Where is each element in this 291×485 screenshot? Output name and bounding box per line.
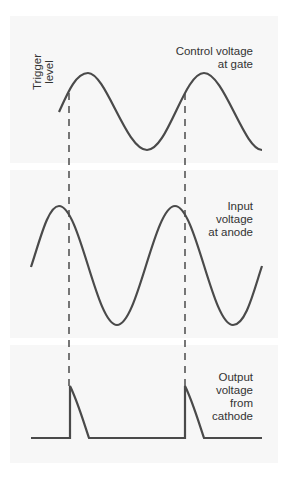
control-label-line-2: at gate [176,58,253,71]
control-voltage-waveform [59,73,262,150]
output-label-line-4: cathode [212,410,253,423]
input-voltage-label: Input voltage at anode [208,200,253,239]
output-label-line-2: voltage [212,384,253,397]
input-label-line-2: voltage [208,213,253,226]
trigger-label-line-2: level [43,54,55,90]
control-voltage-label: Control voltage at gate [176,45,253,71]
control-label-line-1: Control voltage [176,45,253,58]
output-label-line-3: from [212,397,253,410]
input-label-line-3: at anode [208,226,253,239]
output-label-line-1: Output [212,371,253,384]
trigger-level-label: Trigger level [31,54,55,90]
trigger-label-line-1: Trigger [31,54,43,90]
output-voltage-label: Output voltage from cathode [212,371,253,423]
input-label-line-1: Input [208,200,253,213]
